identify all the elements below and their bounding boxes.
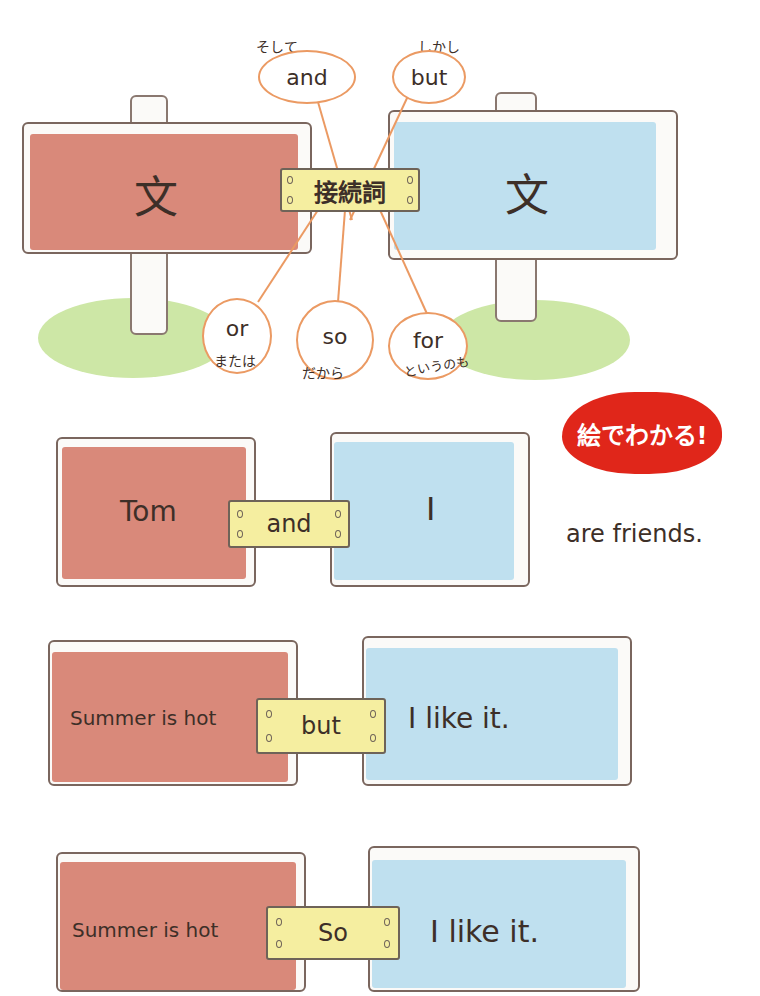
example-so-left-text: Summer is hot [72, 918, 218, 942]
example-and-left-board: Tom [56, 437, 256, 587]
screw-hole-icon [237, 510, 243, 518]
screw-hole-icon [287, 176, 293, 184]
screw-hole-icon [335, 510, 341, 518]
bubble-or-word: or [226, 316, 249, 341]
screw-hole-icon [384, 918, 390, 926]
screw-hole-icon [407, 196, 413, 204]
bubble-but-word: but [411, 65, 448, 90]
example-so-right-board: I like it. [368, 846, 640, 992]
example-but-plate: but [256, 698, 386, 754]
bubble-and: and [258, 50, 356, 104]
screw-hole-icon [370, 734, 376, 742]
example-so-connector: So [318, 919, 348, 947]
screw-hole-icon [276, 940, 282, 948]
conjunction-plate-label: 接続詞 [314, 173, 386, 208]
example-and-left-text: Tom [120, 495, 177, 528]
screw-hole-icon [266, 710, 272, 718]
screw-hole-icon [384, 940, 390, 948]
example-and-right-board: I [330, 432, 530, 587]
example-but-right-text: I like it. [408, 702, 510, 735]
bubble-but: but [392, 50, 466, 104]
example-but-left-text: Summer is hot [70, 706, 216, 730]
screw-hole-icon [237, 530, 243, 538]
example-so-right-text: I like it. [430, 914, 539, 949]
example-but-right-board: I like it. [362, 636, 632, 786]
bubble-for-word: for [413, 328, 443, 353]
badge: 絵でわかる! [562, 392, 722, 474]
example-and-plate: and [228, 500, 350, 548]
screw-hole-icon [276, 918, 282, 926]
badge-label: 絵でわかる! [577, 416, 708, 451]
bubble-so-word: so [323, 324, 348, 349]
example-so-plate: So [266, 906, 400, 960]
bubble-or-meaning: または [214, 350, 256, 370]
example-and-connector: and [266, 510, 311, 538]
example-and-right-text: I [426, 490, 435, 528]
bubble-so-meaning: だから [302, 362, 344, 382]
screw-hole-icon [335, 530, 341, 538]
screw-hole-icon [370, 710, 376, 718]
example-and-suffix: are friends. [566, 520, 703, 548]
example-but-connector: but [301, 712, 341, 740]
conjunction-plate: 接続詞 [280, 168, 420, 212]
screw-hole-icon [287, 196, 293, 204]
bubble-and-word: and [286, 65, 327, 90]
board-face [334, 442, 514, 580]
screw-hole-icon [266, 734, 272, 742]
screw-hole-icon [407, 176, 413, 184]
